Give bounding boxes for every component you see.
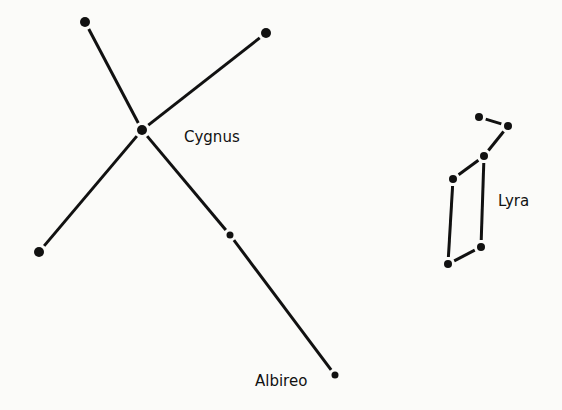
star-icon [480, 152, 488, 160]
star-icon [332, 372, 339, 379]
constellation-line [459, 160, 479, 175]
constellation-line [488, 131, 503, 150]
star-icon [80, 17, 90, 27]
label-albireo: Albireo [255, 372, 307, 390]
star-icon [34, 247, 44, 257]
constellation-stars [34, 17, 512, 379]
constellation-line [147, 136, 226, 230]
label-lyra: Lyra [498, 192, 529, 210]
constellation-lines [44, 29, 503, 370]
constellation-line [44, 136, 137, 246]
star-icon [504, 122, 512, 130]
label-cygnus: Cygnus [184, 128, 240, 146]
star-icon [475, 113, 483, 121]
constellation-diagram: Cygnus Lyra Albireo [0, 0, 562, 410]
constellation-line [234, 240, 331, 370]
constellation-labels: Cygnus Lyra Albireo [184, 128, 529, 390]
star-icon [444, 260, 452, 268]
star-icon [449, 175, 457, 183]
star-icon [477, 243, 485, 251]
star-icon [261, 28, 271, 38]
star-icon [137, 125, 147, 135]
constellation-line [89, 29, 139, 123]
constellation-line [481, 163, 484, 240]
star-icon [227, 232, 234, 239]
constellation-line [448, 186, 452, 257]
constellation-line [454, 250, 475, 261]
constellation-line [486, 119, 502, 124]
constellation-line [148, 38, 259, 125]
